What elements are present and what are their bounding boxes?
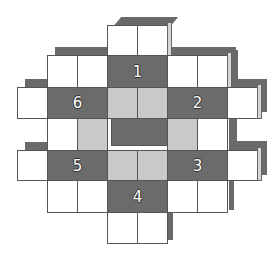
cell-r5-c6 bbox=[197, 180, 228, 213]
cell-r6-c3 bbox=[107, 212, 138, 244]
cell-r2-c0 bbox=[17, 87, 48, 119]
face-6-label: 6 bbox=[47, 87, 108, 119]
shadow-lower-right bbox=[229, 180, 234, 210]
face-4-label: 4 bbox=[107, 180, 168, 213]
shadow-left-row4 bbox=[25, 142, 47, 150]
face-5-label: 5 bbox=[47, 150, 108, 181]
cell-r5-c2 bbox=[77, 180, 108, 213]
cell-r2-c7 bbox=[227, 87, 258, 119]
cell-r3-c5 bbox=[167, 118, 198, 151]
cell-r4-c0 bbox=[17, 150, 48, 181]
cell-r3-c6 bbox=[197, 118, 228, 151]
cell-side-r1 bbox=[227, 52, 232, 88]
cell-r6-c4 bbox=[137, 212, 168, 244]
face-2-label: 2 bbox=[167, 87, 228, 119]
cell-r2-c3 bbox=[107, 87, 138, 119]
cell-r5-c5 bbox=[167, 180, 198, 213]
cell-r3-c2 bbox=[77, 118, 108, 151]
cell-r2-c4 bbox=[137, 87, 168, 119]
cell-r1-c2 bbox=[77, 55, 108, 88]
cell-side-r2 bbox=[257, 84, 262, 119]
cell-r1-c5 bbox=[167, 55, 198, 88]
cell-r4-c3 bbox=[107, 150, 138, 181]
cube-net-diagram: 1 6 2 5 3 4 bbox=[0, 0, 275, 258]
cell-side-r4 bbox=[257, 147, 262, 181]
face-1-label: 1 bbox=[107, 55, 168, 88]
cell-r1-c6 bbox=[197, 55, 228, 88]
center-face bbox=[111, 118, 168, 146]
shadow-mid-right bbox=[229, 118, 237, 150]
cell-r0-c3 bbox=[107, 25, 138, 56]
cell-r1-c1 bbox=[47, 55, 78, 88]
cell-r0-c4 bbox=[137, 25, 168, 56]
cell-r3-c1 bbox=[47, 118, 78, 151]
face-3-label: 3 bbox=[167, 150, 228, 181]
cell-r4-c4 bbox=[137, 150, 168, 181]
cell-side-r0 bbox=[167, 22, 172, 56]
cell-r4-c7 bbox=[227, 150, 258, 181]
cell-r5-c1 bbox=[47, 180, 78, 213]
